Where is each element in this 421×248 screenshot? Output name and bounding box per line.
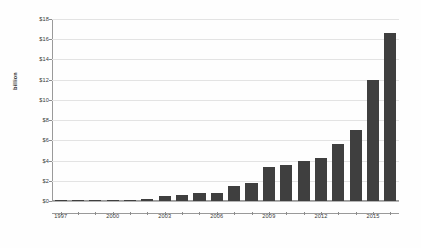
y-axis-tick-labels: $0$2$4$6$8$10$12$14$16$18 [0, 19, 49, 201]
x-tick-mark [147, 212, 148, 215]
gridline [52, 39, 399, 40]
gridline [52, 100, 399, 101]
gridline [52, 161, 399, 162]
y-axis-label: $10 [39, 97, 49, 103]
bar-chart: billion $0$2$4$6$8$10$12$14$16$18 199720… [0, 0, 421, 248]
gridline [52, 181, 399, 182]
y-tick-mark [49, 80, 52, 81]
y-tick-mark [49, 161, 52, 162]
bar [211, 193, 223, 201]
bar [263, 167, 275, 201]
gridline [52, 120, 399, 121]
gridline [52, 59, 399, 60]
x-axis-label: 1997 [54, 213, 67, 219]
y-tick-mark [49, 181, 52, 182]
bar [298, 161, 310, 201]
x-axis-tick-labels: 1997200020032006200920122015 [52, 201, 399, 231]
y-tick-mark [49, 140, 52, 141]
x-axis-label: 2003 [158, 213, 171, 219]
bar [193, 193, 205, 201]
y-axis-label: $18 [39, 16, 49, 22]
bar [280, 165, 292, 201]
x-tick-mark [356, 212, 357, 215]
gridline [52, 140, 399, 141]
x-tick-mark [130, 212, 131, 215]
x-tick-mark [78, 212, 79, 215]
y-tick-mark [49, 39, 52, 40]
plot-area [52, 19, 399, 201]
y-axis-label: $16 [39, 36, 49, 42]
bar [367, 80, 379, 201]
bar [245, 183, 257, 201]
bar [332, 144, 344, 201]
bar [350, 130, 362, 201]
y-tick-mark [49, 19, 52, 20]
x-tick-mark [338, 212, 339, 215]
gridline [52, 80, 399, 81]
x-tick-mark [252, 212, 253, 215]
y-axis-label: $14 [39, 56, 49, 62]
y-tick-mark [49, 59, 52, 60]
y-axis-label: $12 [39, 77, 49, 83]
y-tick-mark [49, 120, 52, 121]
bar [384, 33, 396, 201]
x-tick-mark [390, 212, 391, 215]
x-tick-mark [95, 212, 96, 215]
x-axis-label: 2000 [106, 213, 119, 219]
y-tick-mark [49, 100, 52, 101]
x-tick-mark [199, 212, 200, 215]
bar [228, 186, 240, 201]
x-axis-label: 2009 [262, 213, 275, 219]
x-axis-label: 2012 [314, 213, 327, 219]
x-tick-mark [234, 212, 235, 215]
x-tick-mark [304, 212, 305, 215]
x-axis-label: 2006 [210, 213, 223, 219]
x-tick-mark [182, 212, 183, 215]
gridline [52, 19, 399, 20]
x-axis-label: 2015 [366, 213, 379, 219]
x-tick-mark [286, 212, 287, 215]
bar [315, 158, 327, 201]
